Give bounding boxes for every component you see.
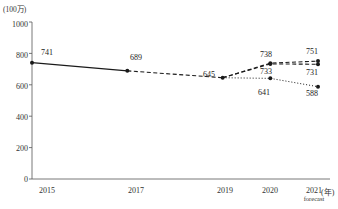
series-line-middle-forecast [223, 64, 318, 78]
series-line-transition [127, 71, 222, 78]
chart-plot-area [0, 0, 338, 209]
data-point-lower-forecast-2021 [316, 85, 320, 89]
series-line-actual [32, 63, 127, 71]
series-group [30, 59, 320, 89]
y-axis-ticks [29, 22, 32, 179]
axis-lines [32, 22, 330, 179]
data-point-middle-forecast-2021 [316, 62, 320, 66]
data-point-2019 [221, 76, 225, 80]
data-point-actual-2015 [30, 61, 34, 65]
data-point-middle-forecast-2020 [268, 62, 272, 66]
data-point-lower-forecast-2020 [268, 76, 272, 80]
line-chart: (100万) 1000 800 600 400 200 0 2015 2017 … [0, 0, 338, 209]
